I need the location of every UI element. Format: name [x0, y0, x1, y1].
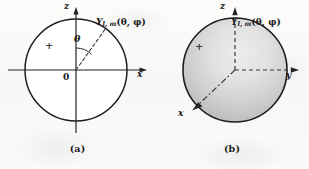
panel-b-sphere: z y x + Yl, m(θ, φ) (b): [155, 0, 309, 169]
z-axis-label: z: [220, 1, 225, 11]
y-axis-label: y: [286, 70, 291, 80]
harmonic-function-label: Yl, m(θ, φ): [231, 17, 281, 28]
z-axis-label: z: [64, 1, 69, 11]
panel-a-caption: (a): [0, 143, 155, 154]
harmonic-subscript: l, m: [103, 20, 117, 28]
sign-label-positive: +: [195, 41, 203, 52]
x-axis-label: x: [178, 108, 183, 118]
harmonic-arguments: (θ, φ): [251, 17, 281, 27]
z-axis-arrowhead: [73, 7, 78, 15]
y-axis-arrowhead: [291, 67, 299, 72]
figure-root: z x θ 0 + Yl, m(θ, φ) (a): [0, 0, 309, 169]
harmonic-arguments: (θ, φ): [116, 17, 146, 27]
panel-a-cross-section: z x θ 0 + Yl, m(θ, φ) (a): [0, 0, 155, 169]
sign-label-positive: +: [45, 40, 53, 51]
origin-label: 0: [63, 72, 69, 82]
harmonic-function-label: Yl, m(θ, φ): [96, 17, 146, 28]
harmonic-subscript: l, m: [238, 20, 252, 28]
panel-b-caption: (b): [155, 143, 309, 154]
x-axis-label: x: [137, 69, 142, 79]
theta-angle-label: θ: [74, 33, 80, 44]
z-axis-arrowhead: [232, 7, 237, 15]
